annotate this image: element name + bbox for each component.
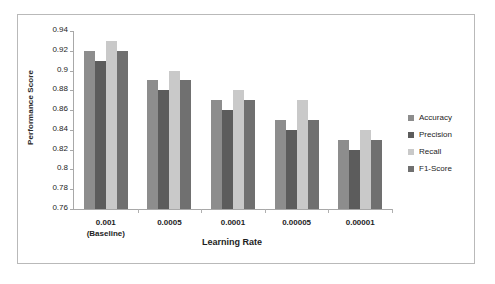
bar[interactable] (117, 51, 128, 209)
bar-group (84, 31, 128, 209)
legend-item[interactable]: Accuracy (408, 109, 452, 126)
y-axis-tick-mark (70, 209, 74, 210)
chart-frame: Performance Score 0.940.920.90.880.860.8… (17, 14, 475, 264)
y-axis-tick-label: 0.78 (52, 183, 68, 192)
bar-group (275, 31, 319, 209)
legend-label: Precision (419, 130, 452, 139)
legend-swatch-icon (408, 132, 414, 138)
bar[interactable] (233, 90, 244, 209)
y-axis-tick-label: 0.8 (57, 163, 68, 172)
x-axis-category-label: 0.00001 (328, 217, 392, 228)
bar[interactable] (349, 150, 360, 209)
bar[interactable] (338, 140, 349, 209)
legend-label: Accuracy (419, 113, 452, 122)
x-axis-category-label: 0.0005 (138, 217, 202, 228)
legend-label: F1-Score (419, 164, 452, 173)
chart-legend: AccuracyPrecisionRecallF1-Score (408, 109, 452, 177)
y-axis-title: Performance Score (26, 48, 35, 168)
plot-area: 0.940.920.90.880.860.840.820.80.780.76 0… (73, 31, 392, 210)
bar[interactable] (244, 100, 255, 209)
y-axis-tick-label: 0.9 (57, 65, 68, 74)
bars-layer (74, 31, 392, 209)
legend-item[interactable]: Precision (408, 126, 452, 143)
x-axis-category-label: 0.00005 (265, 217, 329, 228)
x-axis-separator (201, 209, 202, 213)
bar[interactable] (169, 71, 180, 209)
bar[interactable] (211, 100, 222, 209)
bar[interactable] (297, 100, 308, 209)
bar[interactable] (222, 110, 233, 209)
bar[interactable] (180, 80, 191, 209)
x-axis-separator (138, 209, 139, 213)
legend-swatch-icon (408, 149, 414, 155)
y-axis-tick-label: 0.94 (52, 25, 68, 34)
legend-swatch-icon (408, 115, 414, 121)
y-axis-tick-label: 0.88 (52, 84, 68, 93)
bar[interactable] (84, 51, 95, 209)
bar[interactable] (308, 120, 319, 209)
bar-group (147, 31, 191, 209)
bar[interactable] (158, 90, 169, 209)
bar[interactable] (106, 41, 117, 209)
bar-group (211, 31, 255, 209)
x-axis-separator (328, 209, 329, 213)
legend-item[interactable]: F1-Score (408, 160, 452, 177)
legend-label: Recall (419, 147, 441, 156)
bar[interactable] (360, 130, 371, 209)
y-axis-tick-label: 0.76 (52, 203, 68, 212)
x-axis-separator (265, 209, 266, 213)
legend-item[interactable]: Recall (408, 143, 452, 160)
y-axis-tick-label: 0.92 (52, 45, 68, 54)
x-axis-title: Learning Rate (73, 237, 391, 247)
y-axis-tick-label: 0.86 (52, 104, 68, 113)
x-axis-category-label: 0.0001 (201, 217, 265, 228)
bar[interactable] (95, 61, 106, 209)
bar-group (338, 31, 382, 209)
x-axis-category-label: 0.001 (Baseline) (74, 217, 138, 239)
bar[interactable] (147, 80, 158, 209)
bar[interactable] (286, 130, 297, 209)
y-axis-tick-label: 0.84 (52, 124, 68, 133)
y-axis-tick-label: 0.82 (52, 144, 68, 153)
legend-swatch-icon (408, 166, 414, 172)
bar[interactable] (371, 140, 382, 209)
bar[interactable] (275, 120, 286, 209)
x-axis-separator (392, 209, 393, 213)
